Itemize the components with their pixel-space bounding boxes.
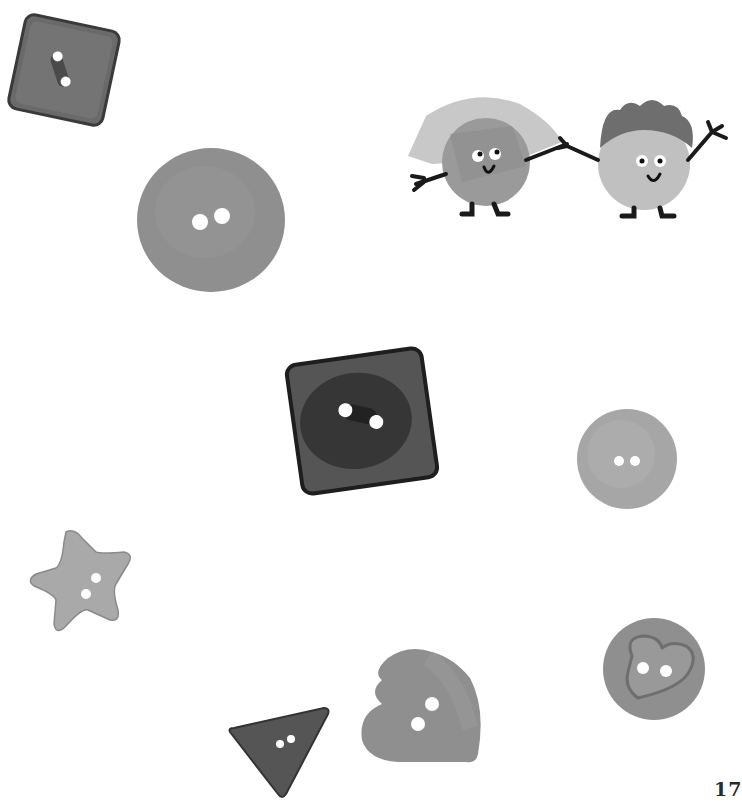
- page-number: 17: [714, 778, 742, 800]
- star-button: [26, 524, 136, 638]
- round-heart-button: [602, 616, 706, 722]
- girl-character: [408, 97, 567, 214]
- heart-button: [358, 648, 492, 774]
- round-button-large: [135, 146, 287, 294]
- button-characters-holding-hands: [402, 86, 738, 226]
- square-button-center: [282, 344, 442, 498]
- square-button-top-left: [2, 8, 126, 132]
- boy-character: [558, 100, 726, 216]
- triangle-button: [226, 702, 332, 800]
- round-button-right: [575, 408, 679, 510]
